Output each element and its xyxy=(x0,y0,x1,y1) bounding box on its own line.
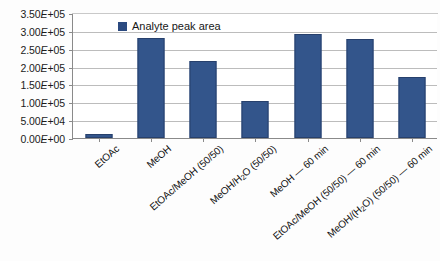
x-axis-category-label: EtOAc xyxy=(93,143,122,170)
chart-legend: Analyte peak area xyxy=(118,20,221,32)
y-axis-tick-label: 5.00E+04 xyxy=(21,115,65,127)
bar-slot xyxy=(334,14,386,138)
y-axis-tick-label: 2.50E+05 xyxy=(21,44,65,56)
y-axis-tick-label: 1.00E+05 xyxy=(21,97,65,109)
bar[interactable] xyxy=(346,39,373,138)
legend-swatch-icon xyxy=(118,22,127,31)
bar-series-analyte-peak-area xyxy=(73,14,437,138)
bar-slot xyxy=(229,14,281,138)
bar-chart: 0.00E+005.00E+041.00E+051.50E+052.00E+05… xyxy=(0,0,440,261)
bar[interactable] xyxy=(190,61,217,138)
x-axis-category-label: EtOAc/MeOH (50/50) — 60 min xyxy=(271,143,382,242)
y-axis-tick-label: 2.00E+05 xyxy=(21,62,65,74)
bar-slot xyxy=(73,14,125,138)
bar-slot xyxy=(125,14,177,138)
bar-slot xyxy=(282,14,334,138)
bar[interactable] xyxy=(242,101,269,139)
y-axis-tick xyxy=(69,139,73,140)
bar[interactable] xyxy=(398,77,425,138)
bar[interactable] xyxy=(294,34,321,138)
bar-slot xyxy=(386,14,438,138)
x-axis-labels: EtOAcMeOHEtOAc/MeOH (50/50)MeOH/H2O (50/… xyxy=(72,141,437,261)
y-axis-tick-label: 1.50E+05 xyxy=(21,79,65,91)
bar[interactable] xyxy=(138,38,165,138)
legend-label: Analyte peak area xyxy=(132,20,221,32)
x-axis-category-label: MeOH/(H2O) (50/50) — 60 min xyxy=(325,143,435,241)
x-axis-category-label: MeOH xyxy=(145,143,174,170)
y-axis-tick-label: 3.50E+05 xyxy=(21,8,65,20)
plot-area xyxy=(72,14,437,139)
y-axis-tick-label: 3.00E+05 xyxy=(21,26,65,38)
bar-slot xyxy=(177,14,229,138)
y-axis-tick-label: 0.00E+00 xyxy=(21,133,65,145)
y-axis-labels: 0.00E+005.00E+041.00E+051.50E+052.00E+05… xyxy=(0,0,70,155)
